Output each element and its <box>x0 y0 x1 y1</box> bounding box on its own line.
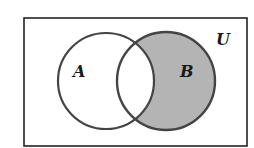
venn-diagram: A B U <box>0 0 254 148</box>
universe-label: U <box>216 30 231 49</box>
set-b-label: B <box>179 62 194 81</box>
set-a-label: A <box>71 62 85 81</box>
